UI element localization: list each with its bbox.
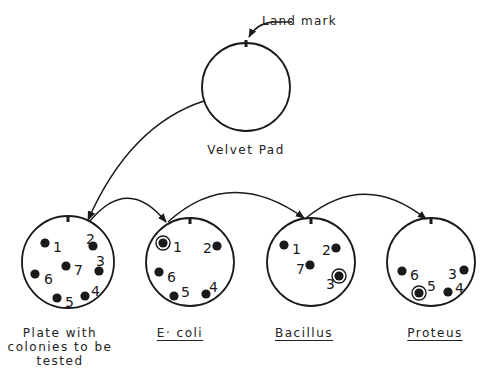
label-line: tested	[4, 354, 116, 368]
svg-text:4: 4	[455, 280, 464, 296]
svg-text:7: 7	[74, 262, 83, 278]
velvet-pad	[202, 40, 290, 131]
svg-text:5: 5	[427, 278, 436, 294]
svg-text:1: 1	[292, 241, 301, 257]
colony-1: 1	[279, 240, 301, 257]
colony-3: 3	[326, 269, 346, 292]
landmark-label: Land mark	[262, 14, 337, 28]
colony-1: 1	[156, 236, 182, 255]
proteus-plate-label: Proteus	[400, 326, 470, 340]
svg-text:5: 5	[181, 284, 190, 300]
svg-text:7: 7	[296, 261, 305, 277]
colony-2: 2	[86, 231, 98, 251]
colony-7: 7	[296, 260, 315, 277]
colony-7: 7	[61, 261, 83, 278]
landmark-notch-icon	[245, 40, 248, 47]
ecoli-plate-label: E· coli	[150, 326, 210, 340]
svg-text:3: 3	[326, 276, 335, 292]
colony-4: 4	[443, 280, 464, 297]
svg-text:1: 1	[53, 239, 62, 255]
landmark-notch-icon	[310, 217, 313, 224]
colony-2: 2	[203, 240, 222, 256]
svg-text:2: 2	[322, 242, 331, 258]
svg-text:1: 1	[173, 239, 182, 255]
colony-2: 2	[322, 242, 341, 258]
arrow-bacillus-to-proteus	[306, 194, 426, 219]
svg-text:4: 4	[91, 283, 100, 299]
plate-bacillus: 1237	[267, 217, 355, 306]
velvet-pad-label: Velvet Pad	[196, 143, 296, 157]
label-line: Plate with	[4, 326, 116, 340]
svg-text:4: 4	[209, 279, 218, 295]
colony-4: 4	[80, 283, 100, 301]
svg-text:2: 2	[203, 240, 212, 256]
colony-1: 1	[40, 238, 62, 255]
colony-3: 3	[94, 253, 105, 276]
arrow-master-to-ecoli	[90, 198, 166, 222]
svg-text:6: 6	[44, 271, 53, 287]
plate-ecoli: 12456	[146, 217, 234, 306]
colony-5: 5	[169, 284, 190, 301]
landmark-notch-icon	[430, 217, 433, 224]
landmark-notch-icon	[67, 215, 70, 222]
svg-text:6: 6	[167, 269, 176, 285]
svg-text:2: 2	[86, 231, 95, 247]
colony-6: 6	[154, 267, 176, 285]
plate-master: 1234567	[22, 215, 114, 310]
svg-text:5: 5	[65, 294, 74, 310]
colony-6: 6	[30, 269, 53, 287]
landmark-notch-icon	[189, 217, 192, 224]
plate-proteus: 3456	[387, 217, 475, 306]
label-line: colonies to be	[4, 340, 116, 354]
svg-text:3: 3	[96, 253, 105, 269]
svg-text:6: 6	[410, 267, 419, 283]
arrow-pad-to-master	[88, 101, 204, 220]
colony-4: 4	[201, 279, 218, 299]
colony-6: 6	[397, 266, 419, 283]
master-plate-label: Plate with colonies to be tested	[4, 326, 116, 368]
bacillus-plate-label: Bacillus	[264, 326, 344, 340]
